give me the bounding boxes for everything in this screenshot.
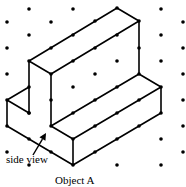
- side-view-arrow: [33, 133, 46, 155]
- grid-dot: [115, 59, 119, 63]
- grid-dot: [93, 98, 97, 102]
- grid-dot: [115, 6, 119, 10]
- edge: [117, 8, 139, 21]
- grid-dot: [115, 33, 119, 37]
- grid-dot: [71, 163, 75, 167]
- grid-dot: [5, 72, 9, 76]
- grid-dot: [27, 85, 31, 89]
- grid-dot: [159, 137, 163, 141]
- edge: [7, 100, 29, 113]
- grid-dot: [49, 20, 53, 24]
- grid-dot: [5, 124, 9, 128]
- grid-dot: [71, 59, 75, 63]
- grid-dot: [71, 85, 75, 89]
- grid-dot: [159, 111, 163, 115]
- grid-dot: [181, 20, 185, 24]
- grid-dot: [137, 19, 141, 23]
- grid-dot: [159, 85, 163, 89]
- edge: [51, 126, 73, 139]
- grid-dot: [71, 33, 75, 37]
- grid-dot: [181, 124, 185, 128]
- grid-dot: [27, 137, 31, 141]
- grid-dot: [159, 59, 163, 63]
- grid-dot: [5, 46, 9, 50]
- grid-dot: [115, 111, 119, 115]
- grid-dot: [5, 98, 9, 102]
- grid-dot: [137, 72, 141, 76]
- edge: [29, 61, 51, 74]
- edge: [139, 74, 161, 87]
- grid-dot: [159, 163, 163, 167]
- grid-dot: [115, 137, 119, 141]
- grid-dot: [181, 150, 185, 154]
- grid-dot: [71, 137, 75, 141]
- edge: [7, 87, 29, 100]
- grid-dot: [137, 46, 141, 50]
- grid-dot: [115, 163, 119, 167]
- grid-dot: [49, 150, 53, 154]
- grid-dot: [27, 59, 31, 63]
- grid-dot: [27, 7, 31, 11]
- grid-dot: [93, 19, 97, 23]
- grid-dot: [93, 46, 97, 50]
- grid-dot: [27, 33, 31, 37]
- grid-dot: [49, 124, 53, 128]
- object-caption: Object A: [55, 174, 94, 186]
- side-view-label: side view: [6, 153, 48, 165]
- grid-dot: [5, 20, 9, 24]
- isometric-drawing: side view Object A: [0, 0, 186, 187]
- grid-dot: [159, 33, 163, 37]
- grid-dot: [71, 7, 75, 11]
- grid-dot: [159, 7, 163, 11]
- grid-dot: [93, 124, 97, 128]
- grid-dot: [93, 150, 97, 154]
- grid-dot: [181, 72, 185, 76]
- grid-dot: [27, 111, 31, 115]
- grid-dot: [93, 72, 97, 76]
- grid-dot: [137, 98, 141, 102]
- grid-dot: [49, 98, 53, 102]
- grid-dot: [49, 46, 53, 50]
- grid-dots: [5, 6, 185, 167]
- grid-dot: [71, 111, 75, 115]
- grid-dot: [181, 98, 185, 102]
- grid-dot: [181, 46, 185, 50]
- grid-dot: [137, 124, 141, 128]
- grid-dot: [49, 72, 53, 76]
- grid-dot: [115, 85, 119, 89]
